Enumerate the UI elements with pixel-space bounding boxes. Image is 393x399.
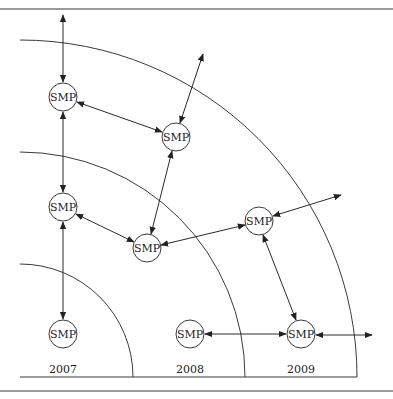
node-label: SMP — [163, 131, 190, 144]
year-label-2008: 2008 — [176, 363, 204, 376]
node-label: SMP — [177, 328, 204, 341]
ring-2007-arc — [20, 264, 133, 377]
smp-evolution-diagram: SMP SMP SMP SMP SMP SMP SMP SMP 2007 200… — [0, 0, 393, 399]
year-label-2009: 2009 — [287, 363, 315, 376]
edge-B-D — [151, 151, 172, 234]
year-label-2007: 2007 — [49, 363, 77, 376]
edge-D-E — [161, 225, 245, 245]
node-C: SMP — [49, 193, 77, 221]
node-H: SMP — [287, 320, 315, 348]
node-E: SMP — [245, 207, 273, 235]
node-label: SMP — [288, 328, 315, 341]
node-A: SMP — [49, 83, 77, 111]
edges — [63, 15, 372, 335]
node-label: SMP — [50, 328, 77, 341]
edge-E-right — [273, 195, 341, 216]
node-F: SMP — [49, 320, 77, 348]
edge-E-H — [263, 235, 296, 320]
node-B: SMP — [162, 123, 190, 151]
node-label: SMP — [134, 242, 161, 255]
node-label: SMP — [50, 91, 77, 104]
node-label: SMP — [50, 201, 77, 214]
edge-A-B — [77, 102, 162, 132]
node-label: SMP — [246, 215, 273, 228]
node-D: SMP — [133, 234, 161, 262]
node-G: SMP — [176, 320, 204, 348]
edge-B-upper-right — [180, 54, 203, 123]
edge-C-D — [76, 214, 134, 242]
